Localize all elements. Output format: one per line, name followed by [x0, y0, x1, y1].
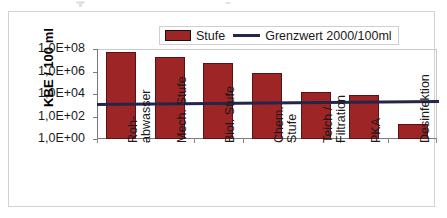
- scan-artifact: [225, 2, 231, 4]
- y-axis-tick-label: 1,0E+06: [15, 64, 85, 78]
- legend-bar-label: Stufe: [196, 29, 225, 43]
- x-axis-label: Biol. Stufe: [224, 86, 237, 143]
- x-axis-label: PKA: [370, 118, 383, 143]
- x-axis-label-line: Stufe: [286, 106, 299, 143]
- x-axis-label-line: abwasser: [140, 90, 153, 144]
- x-axis-label-line: Desinfektion: [419, 74, 432, 143]
- x-axis-label: Mech. Stufe: [176, 76, 189, 143]
- x-axis-tick: [436, 138, 437, 143]
- chart-frame: Stufe Grenzwert 2000/100ml KBE / 100 ml …: [8, 11, 435, 207]
- x-axis-label: Teich /Filtration: [322, 95, 348, 143]
- x-axis-label-line: PKA: [370, 118, 383, 143]
- y-axis-tick: [93, 94, 98, 95]
- scan-artifact: [79, 4, 82, 7]
- chart-legend: Stufe Grenzwert 2000/100ml: [159, 26, 399, 45]
- x-axis-label: Roh-abwasser: [127, 90, 153, 144]
- legend-bar-swatch: [165, 30, 191, 41]
- legend-line-swatch: [233, 34, 260, 37]
- plot-right-border: [436, 49, 437, 139]
- legend-line-label: Grenzwert 2000/100ml: [265, 29, 391, 43]
- y-axis-tick: [93, 117, 98, 118]
- x-axis-label-line: Biol. Stufe: [224, 86, 237, 143]
- x-axis-tick: [243, 138, 244, 143]
- x-axis-label: Chem.Stufe: [273, 106, 299, 143]
- chart-root: Stufe Grenzwert 2000/100ml KBE / 100 ml …: [0, 0, 447, 218]
- x-axis-tick: [97, 138, 98, 143]
- x-axis-tick: [194, 138, 195, 143]
- y-axis-tick: [93, 49, 98, 50]
- y-axis-tick: [93, 72, 98, 73]
- y-axis-tick-label: 1,0E+00: [15, 131, 85, 145]
- x-axis-tick: [388, 138, 389, 143]
- x-axis-label-line: Filtration: [335, 95, 348, 143]
- plot-top-border: [97, 49, 437, 50]
- x-axis-label-line: Mech. Stufe: [176, 76, 189, 143]
- y-axis-tick-label: 1,0E+02: [15, 109, 85, 123]
- x-axis-label-line: Teich /: [322, 95, 335, 143]
- y-axis-tick-label: 1,0E+04: [15, 86, 85, 100]
- y-axis-tick-label: 1,0E+08: [15, 41, 85, 55]
- x-axis-label: Desinfektion: [419, 74, 432, 143]
